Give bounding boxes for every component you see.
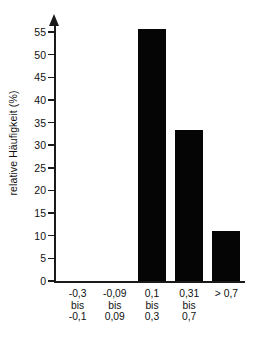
y-tick-label: 55 [0,26,46,38]
y-tick-label: 10 [0,230,46,242]
x-axis-line [54,281,245,283]
y-tick-mark [48,77,55,78]
y-tick-mark [48,258,55,259]
y-tick-mark [48,54,55,55]
plot-area: 0510152025303540455055 -0,3bis-0,1-0,09b… [0,0,255,342]
bar [212,231,240,281]
x-category-label-line: 0,7 [167,311,212,323]
y-tick-label: 40 [0,94,46,106]
x-category-label: > 0,7 [204,288,249,300]
y-tick-mark [48,99,55,100]
y-tick-label: 30 [0,139,46,151]
x-category-label-line: > 0,7 [204,288,249,300]
y-tick-mark [48,31,55,32]
y-tick-mark [48,235,55,236]
bar [175,130,203,281]
y-tick-label: 0 [0,275,46,287]
y-tick-label: 15 [0,207,46,219]
bar [138,29,166,281]
y-tick-mark [48,122,55,123]
y-tick-mark [48,212,55,213]
y-axis-arrow-icon [49,14,59,26]
y-tick-label: 20 [0,184,46,196]
y-tick-mark [48,190,55,191]
y-tick-label: 45 [0,71,46,83]
y-tick-label: 50 [0,49,46,61]
y-tick-mark [48,167,55,168]
y-axis-line [54,24,56,282]
y-tick-label: 5 [0,252,46,264]
x-category-label-line: bis [167,300,212,312]
y-tick-label: 25 [0,162,46,174]
y-tick-label: 35 [0,117,46,129]
y-tick-mark [48,144,55,145]
y-tick-mark [48,280,55,281]
bar-chart-figure: relative Häufigkeit (%) 0510152025303540… [0,0,255,342]
